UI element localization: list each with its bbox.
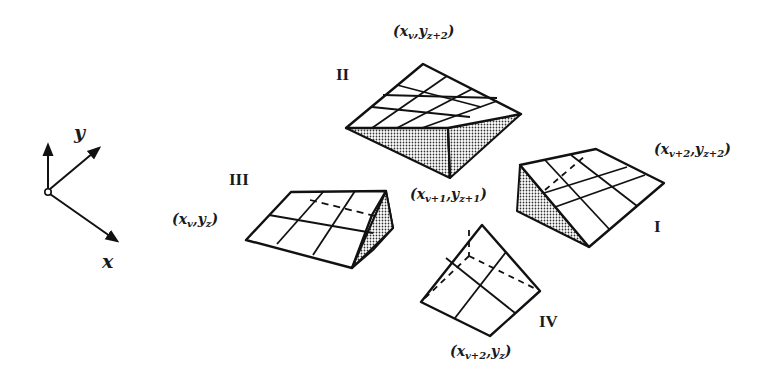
coord-label-center: (xv+1,yz+1) — [410, 187, 487, 204]
y-axis-label: y — [74, 123, 85, 142]
prism-patches-diagram — [0, 0, 784, 384]
coord-label-bottom: (xv+2,yz) — [450, 344, 511, 361]
x-axis-label: x — [102, 252, 113, 271]
patch-label-iii: III — [229, 171, 249, 188]
x-axis — [50, 194, 117, 241]
coord-label-right: (xv+2,yz+2) — [654, 142, 731, 159]
z-axis — [50, 148, 99, 189]
origin-marker — [45, 189, 51, 195]
patch-ii — [346, 64, 521, 178]
patch-ii-front-face — [346, 128, 450, 178]
coord-label-top: (xv,yz+2) — [393, 24, 454, 41]
patch-iv — [421, 225, 540, 336]
axes-icon — [45, 145, 117, 241]
patch-iii — [246, 191, 393, 268]
patch-label-ii: II — [336, 66, 349, 83]
patch-i — [517, 149, 664, 247]
patch-label-iv: IV — [539, 313, 558, 330]
coord-label-left: (xv,yz) — [172, 212, 218, 229]
patch-label-i: I — [654, 218, 661, 235]
patch-iv-top-face — [421, 225, 540, 336]
